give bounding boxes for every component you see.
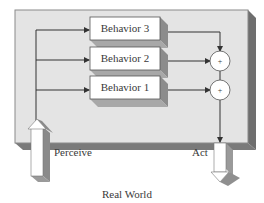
combiner-top: + — [210, 51, 230, 71]
behavior-3-label: Behavior 3 — [101, 22, 150, 34]
subsumption-diagram: Behavior 3 Behavior 2 Behavior 1 + + — [0, 0, 264, 203]
behavior-2-label: Behavior 2 — [101, 52, 150, 64]
real-world-label: Real World — [102, 188, 152, 200]
plus-icon: + — [218, 86, 223, 95]
perceive-label: Perceive — [54, 146, 92, 158]
behavior-1-label: Behavior 1 — [101, 81, 150, 93]
plus-icon: + — [218, 57, 223, 66]
act-label: Act — [192, 146, 208, 158]
combiner-bottom: + — [210, 80, 230, 100]
